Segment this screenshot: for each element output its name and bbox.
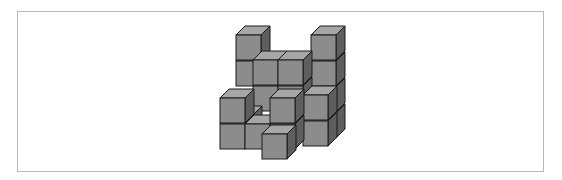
cube [311, 26, 345, 60]
cube [278, 51, 312, 85]
cube [270, 89, 304, 123]
cube [220, 89, 254, 123]
cube-stack-figure [0, 0, 562, 180]
cube [262, 125, 296, 159]
cube [303, 86, 337, 120]
